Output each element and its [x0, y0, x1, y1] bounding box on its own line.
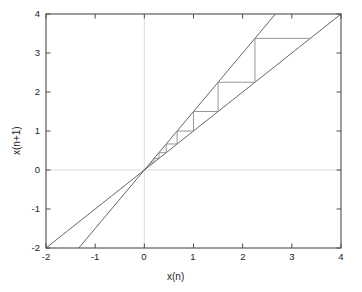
- x-axis-title: x(n): [167, 272, 184, 282]
- plot-canvas: [0, 0, 362, 292]
- xtick-label-1: 1: [183, 252, 203, 262]
- y-axis-title: x(n+1): [12, 126, 22, 155]
- xtick-label-minus-1: -1: [85, 252, 105, 262]
- xtick-label-minus-2: -2: [36, 252, 56, 262]
- ytick-label-2: 2: [22, 87, 40, 97]
- xtick-label-0: 0: [134, 252, 154, 262]
- xtick-label-4: 4: [331, 252, 351, 262]
- xtick-label-2: 2: [233, 252, 253, 262]
- ytick-label-1: 1: [22, 126, 40, 136]
- ytick-label-0: 0: [22, 165, 40, 175]
- figure-container: 4 3 2 1 0 -1 -2 -2 -1 0 1 2 3 4 x(n) x(n…: [0, 0, 362, 292]
- xtick-label-3: 3: [282, 252, 302, 262]
- ytick-label-minus-1: -1: [22, 204, 40, 214]
- ytick-label-4: 4: [22, 9, 40, 19]
- ytick-label-3: 3: [22, 48, 40, 58]
